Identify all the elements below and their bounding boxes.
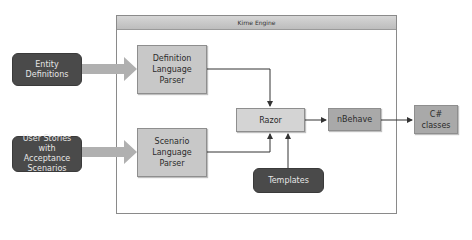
templates-node: Templates: [253, 168, 324, 193]
definition-parser-node: Definition Language Parser: [137, 45, 207, 94]
razor-label: Razor: [259, 115, 282, 126]
definition-parser-label: Definition Language Parser: [144, 53, 200, 86]
user-stories-node: User Stories with Acceptance Scenarios: [12, 136, 82, 172]
templates-label: Templates: [268, 176, 309, 186]
scenario-parser-node: Scenario Language Parser: [137, 128, 207, 177]
csharp-classes-label: C# classes: [421, 109, 451, 131]
csharp-classes-node: C# classes: [414, 105, 458, 134]
razor-node: Razor: [236, 108, 305, 132]
entity-definitions-label: Entity Definitions: [13, 60, 81, 80]
fat-arrow-stories: [82, 140, 137, 164]
fat-arrow-entity: [82, 57, 137, 81]
nbehave-node: nBehave: [328, 108, 381, 131]
entity-definitions-node: Entity Definitions: [12, 53, 82, 86]
scenario-parser-label: Scenario Language Parser: [144, 136, 200, 169]
nbehave-label: nBehave: [337, 114, 372, 125]
user-stories-label: User Stories with Acceptance Scenarios: [17, 134, 77, 174]
